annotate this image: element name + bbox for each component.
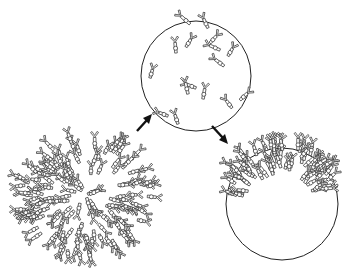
capped-spiked-particle <box>219 131 342 260</box>
diagram-canvas <box>0 0 348 274</box>
sparse-spiked-particle <box>141 9 255 131</box>
arrow-sparse-to-capped <box>212 126 228 144</box>
spike-glyph <box>220 93 236 110</box>
spike-glyph <box>91 131 99 148</box>
spike-glyph <box>183 32 198 49</box>
spike-glyph <box>96 221 113 239</box>
spike-glyph <box>171 36 180 53</box>
spike-glyph <box>248 139 260 157</box>
spike-glyph <box>137 216 153 227</box>
spike-glyph <box>169 108 182 126</box>
spike-glyph <box>207 29 223 46</box>
spike-glyph <box>118 180 135 189</box>
spike-glyph <box>127 165 145 178</box>
spike-glyph <box>146 62 158 79</box>
spike-glyph <box>147 192 163 202</box>
spike-glyph <box>208 53 226 69</box>
arrow-dense-to-sparse <box>137 114 152 131</box>
spike-glyph <box>237 86 254 103</box>
spike-glyph <box>199 82 210 100</box>
dense-spiked-particle <box>7 126 162 268</box>
spike-glyph <box>225 41 240 58</box>
